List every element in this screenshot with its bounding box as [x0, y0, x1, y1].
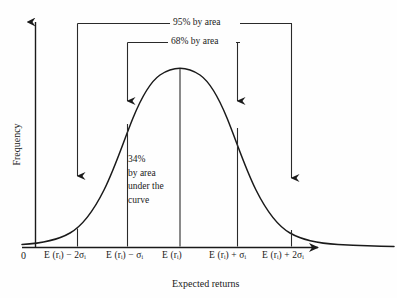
annotation-line-1: 34%: [128, 153, 164, 167]
y-axis-title: Frequency: [11, 110, 22, 180]
bracket-label-95: 95% by area: [171, 17, 222, 27]
annotation-line-3: under the: [128, 180, 164, 194]
x-tick-label-minus-1-sigma: E (rᵢ) − σᵢ: [106, 250, 143, 260]
bracket-95-percent: [78, 24, 293, 179]
x-tick-label-minus-2-sigma: E (rᵢ) − 2σᵢ: [44, 250, 86, 260]
bracket-68-percent: [128, 43, 241, 102]
x-tick-label-mean: E (rᵢ): [162, 250, 182, 260]
sigma-drop-lines: [78, 69, 292, 247]
normal-distribution-figure: 95% by area 68% by area 34% by area unde…: [0, 0, 397, 298]
annotation-34-percent: 34% by area under the curve: [128, 153, 164, 207]
x-axis-title: Expected returns: [172, 278, 239, 289]
annotation-line-2: by area: [128, 167, 164, 181]
x-tick-label-plus-1-sigma: E (rᵢ) + σᵢ: [209, 250, 246, 260]
annotation-line-4: curve: [128, 194, 164, 208]
origin-label: 0: [21, 250, 26, 261]
bracket-label-68: 68% by area: [169, 36, 220, 46]
x-tick-label-plus-2-sigma: E (rᵢ) + 2σᵢ: [262, 250, 304, 260]
